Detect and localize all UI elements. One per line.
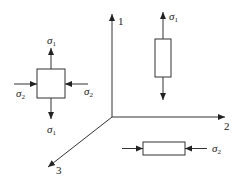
- horizontal-bar: [143, 142, 185, 155]
- vertical-bar-element: σ1: [155, 10, 178, 100]
- sigma2-right-label: σ2: [84, 85, 93, 99]
- axis-3-label: 3: [56, 164, 62, 176]
- horizontal-bar-label: σ2: [212, 142, 221, 156]
- axis-1-label: 1: [118, 15, 124, 27]
- axis-3-line: [48, 117, 112, 167]
- horizontal-bar-element: σ2: [122, 142, 221, 156]
- vertical-bar-label: σ1: [169, 10, 178, 24]
- sigma2-left-label: σ2: [16, 87, 25, 101]
- sigma1-bottom-label: σ1: [47, 123, 56, 137]
- sigma1-top-label: σ1: [47, 34, 56, 48]
- coordinate-axes: 1 2 3: [48, 14, 230, 176]
- square-element: [37, 69, 65, 98]
- stress-diagram: 1 2 3 σ1 σ1 σ2 σ2 σ1 σ2: [0, 0, 241, 187]
- axis-2-label: 2: [224, 120, 230, 132]
- vertical-bar: [155, 39, 171, 77]
- biaxial-element: σ1 σ1 σ2 σ2: [14, 34, 93, 137]
